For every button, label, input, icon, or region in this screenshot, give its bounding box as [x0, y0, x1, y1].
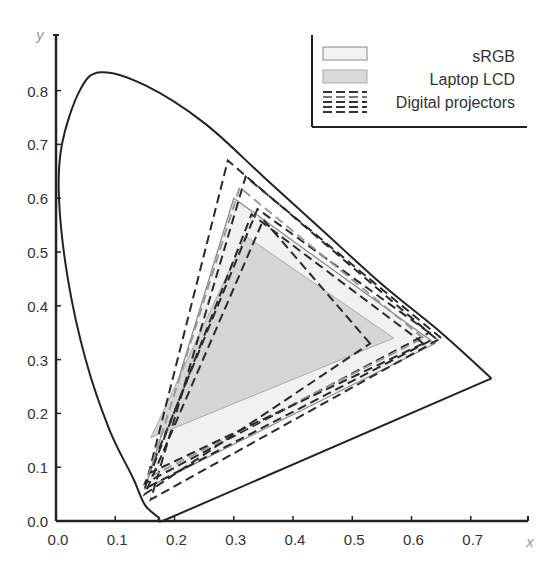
legend-swatch-srgb: [323, 47, 367, 60]
y-tick-label: 0.3: [27, 352, 48, 369]
x-tick-label: 0.3: [225, 531, 246, 548]
plot-area: [59, 72, 492, 521]
x-tick-label: 0.4: [285, 531, 306, 548]
chromaticity-chart: 0.00.10.20.30.40.50.60.70.00.10.20.30.40…: [0, 0, 552, 574]
legend-label-laptop-lcd: Laptop LCD: [430, 71, 515, 88]
y-tick-label: 0.2: [27, 405, 48, 422]
x-axis-label: x: [525, 533, 534, 550]
y-tick-label: 0.7: [27, 136, 48, 153]
y-tick-label: 0.6: [27, 190, 48, 207]
legend-swatch-projectors: [323, 92, 367, 112]
legend: sRGB Laptop LCD Digital projectors: [312, 35, 527, 127]
x-tick-label: 0.1: [107, 531, 128, 548]
legend-label-projectors: Digital projectors: [396, 94, 515, 111]
x-tick-label: 0.5: [344, 531, 365, 548]
legend-swatch-laptop-lcd: [323, 70, 367, 83]
x-tick-label: 0.0: [48, 531, 69, 548]
y-tick-label: 0.8: [27, 83, 48, 100]
y-axis-label: y: [35, 26, 45, 43]
y-tick-label: 0.1: [27, 459, 48, 476]
y-tick-label: 0.5: [27, 244, 48, 261]
x-tick-label: 0.6: [403, 531, 424, 548]
y-tick-label: 0.4: [27, 298, 48, 315]
legend-label-srgb: sRGB: [472, 48, 515, 65]
x-tick-label: 0.2: [166, 531, 187, 548]
x-tick-label: 0.7: [462, 531, 483, 548]
y-tick-label: 0.0: [27, 513, 48, 530]
